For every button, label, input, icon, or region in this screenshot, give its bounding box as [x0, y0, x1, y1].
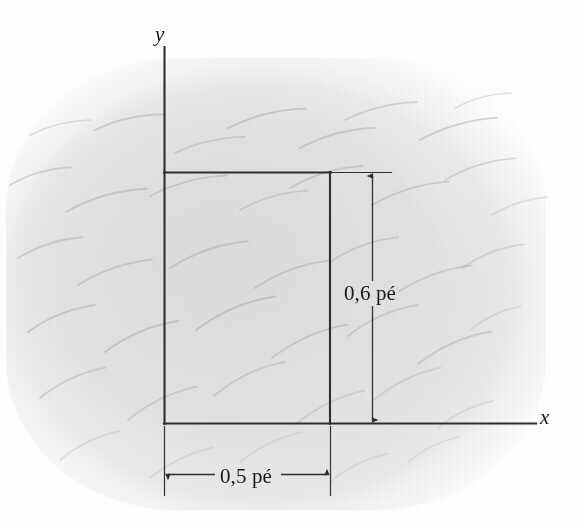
streakline [300, 128, 375, 148]
streakline [150, 175, 227, 196]
streakline [228, 109, 306, 128]
streakline [290, 166, 363, 188]
streakline [408, 437, 460, 462]
streakline [105, 321, 179, 352]
streakline [374, 368, 441, 400]
streakline [78, 260, 152, 285]
x-axis-label: x [540, 407, 549, 428]
streakline [330, 454, 388, 482]
streakline [240, 432, 301, 462]
streakline [170, 241, 248, 268]
streakline [18, 237, 83, 258]
streakline [28, 305, 95, 332]
width-dimension-label: 0,5 pé [215, 464, 277, 489]
streakline [492, 197, 547, 215]
streakline [175, 137, 245, 153]
y-axis-label: y [155, 24, 164, 45]
streakline [60, 431, 119, 460]
streakline [420, 118, 497, 140]
streakline [255, 261, 330, 288]
coordinate-axes [164, 47, 536, 424]
streakline [240, 191, 307, 210]
streakline [348, 305, 417, 336]
streakline [214, 362, 284, 396]
streakline [272, 325, 347, 358]
figure-overlay [0, 0, 577, 528]
streakline [398, 265, 471, 292]
streakline [10, 167, 72, 185]
streakline [445, 158, 516, 180]
streakline [455, 93, 511, 108]
streakline [470, 306, 521, 330]
streakline [30, 120, 90, 135]
height-dimension-label: 0,6 pé [341, 281, 399, 306]
control-volume-rectangle [164, 172, 331, 424]
streakline [345, 102, 417, 120]
flow-visualization-figure: y x 0,6 pé 0,5 pé [0, 0, 577, 528]
streakline [418, 332, 491, 365]
streakline [66, 189, 147, 212]
streakline [330, 237, 398, 262]
streakline [196, 296, 275, 330]
streakline [95, 114, 163, 130]
streakline [372, 182, 449, 205]
streakline [150, 447, 213, 478]
streakline [128, 387, 196, 420]
streakline [40, 368, 105, 398]
